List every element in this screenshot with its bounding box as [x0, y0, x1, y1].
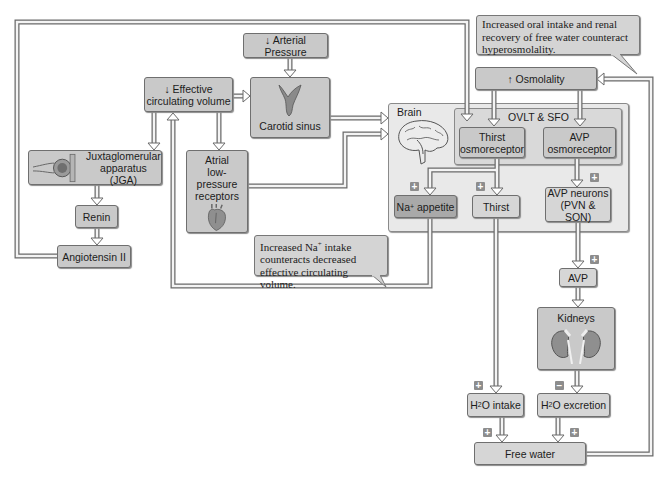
na-suffix: appetite	[414, 201, 454, 213]
node-avp-osmoreceptor: AVP osmoreceptor	[543, 127, 616, 158]
plus-icon-free-water-right: +	[570, 428, 579, 437]
node-thirst: Thirst	[472, 195, 520, 218]
callout-sodium-prefix: Increased Na	[260, 241, 318, 253]
plus-icon-h2o-intake: +	[474, 381, 483, 390]
carotid-artery-icon	[275, 83, 305, 117]
heart-icon	[202, 204, 232, 232]
node-h2o-excretion: H2O excretion	[537, 393, 610, 417]
node-kidneys: Kidneys	[537, 307, 615, 370]
node-h2o-intake: H2O intake	[467, 393, 524, 417]
kidneys-label: Kidneys	[557, 312, 594, 324]
avp-osmo-line2: osmoreceptor	[547, 143, 611, 155]
callout-osmolality-pointer	[610, 54, 640, 76]
thirst-osmo-line2: osmoreceptor	[460, 143, 524, 155]
node-angiotensin-ii: Angiotensin II	[57, 245, 131, 268]
glomerulus-icon	[33, 153, 82, 183]
avp-neurons-line1: AVP neurons	[548, 187, 609, 199]
na-prefix: Na	[397, 201, 410, 213]
jga-line2: apparatus (JGA)	[86, 162, 161, 186]
plus-icon-avp: +	[590, 255, 599, 264]
kidneys-icon	[548, 326, 604, 364]
minus-icon-h2o-excretion: −	[555, 381, 564, 390]
node-jga: Juxtaglomerular apparatus (JGA)	[28, 150, 162, 185]
avp-osmo-line1: AVP	[569, 131, 589, 143]
jga-line1: Juxtaglomerular	[86, 150, 161, 162]
plus-icon-free-water-left: +	[483, 428, 492, 437]
physiology-diagram: Brain OVLT & SFO	[0, 0, 665, 477]
node-renin: Renin	[75, 205, 118, 228]
node-atrial-receptors: Atrial low-pressure receptors	[186, 150, 248, 233]
callout-sodium: Increased Na+ intake counteracts decreas…	[254, 235, 388, 276]
atrial-line2: low-pressure	[187, 166, 247, 190]
callout-osmolality: Increased oral intake and renal recovery…	[476, 15, 640, 55]
brain-icon	[395, 118, 451, 166]
h2o-excretion-prefix: H	[541, 399, 549, 411]
callout-sodium-pointer	[370, 275, 390, 289]
h2o-intake-suffix: O intake	[482, 399, 521, 411]
node-thirst-osmoreceptor: Thirst osmoreceptor	[459, 127, 525, 158]
plus-icon-thirst: +	[476, 182, 485, 191]
h2o-intake-prefix: H	[470, 399, 478, 411]
atrial-line1: Atrial	[205, 154, 229, 166]
h2o-excretion-suffix: O excretion	[552, 399, 606, 411]
node-osmolality: ↑ Osmolality	[475, 67, 597, 90]
effective-volume-line2: circulating volume	[146, 95, 230, 107]
node-arterial-pressure: ↓ Arterial Pressure	[243, 33, 328, 58]
avp-neurons-line2: (PVN & SON)	[546, 199, 610, 223]
node-avp: AVP	[559, 268, 597, 287]
node-na-appetite: Na+ appetite	[394, 195, 457, 218]
carotid-sinus-label: Carotid sinus	[259, 120, 320, 132]
plus-icon-na-appetite: +	[410, 182, 419, 191]
thirst-osmo-line1: Thirst	[479, 131, 505, 143]
node-carotid-sinus: Carotid sinus	[250, 77, 330, 138]
node-free-water: Free water	[474, 442, 586, 465]
node-effective-circulating-volume: ↓ Effective circulating volume	[144, 77, 233, 112]
atrial-line3: receptors	[195, 190, 239, 202]
plus-icon-avp-neurons: +	[590, 173, 599, 182]
effective-volume-line1: ↓ Effective	[164, 83, 212, 95]
node-avp-neurons: AVP neurons (PVN & SON)	[545, 187, 611, 222]
